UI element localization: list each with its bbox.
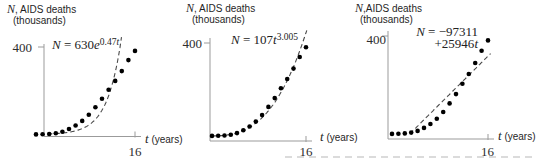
data-point [403,131,408,136]
chart-power-fit: N, AIDS deaths (thousands) 400 N = 107t3… [170,0,351,159]
model-formula: N = 107t3.005 [231,34,298,48]
y-tick-label: 400 [8,40,32,55]
data-point [467,72,472,77]
data-point [260,113,265,118]
axes [204,38,312,142]
data-point [120,69,125,74]
x-tick-label: 16 [123,144,147,159]
y-axis-unit: (thousands) [192,14,255,25]
data-point [222,133,227,138]
data-point [47,132,52,137]
y-axis-title-line1: N,AIDS deaths [355,3,422,14]
y-axis-unit: (thousands) [360,14,422,25]
y-axis-title-line1: N, AIDS deaths [7,4,76,15]
data-point [100,97,105,102]
data-point [241,128,246,133]
y-var: N [355,1,363,15]
data-point [73,123,78,128]
data-point [266,105,271,110]
cropped-caption-remnant [285,156,537,158]
y-axis-title: N, AIDS deaths (thousands) [7,4,76,26]
data-point [291,66,296,71]
y-axis-title: N, AIDS deaths (thousands) [186,3,255,25]
data-point [447,101,452,106]
data-point [473,61,478,66]
y-var: N [7,2,15,16]
x-axis-title: t (years) [498,126,536,144]
data-point [216,134,221,139]
data-point [435,117,440,122]
fit-curve [410,54,491,134]
data-point [235,131,240,136]
y-axis-unit: (thousands) [13,15,76,26]
data-point [113,79,118,84]
data-point [40,132,45,137]
data-point [87,113,92,118]
data-point [297,55,302,60]
data-point [106,87,111,92]
data-point [422,126,427,131]
data-point [390,132,395,137]
data-point [479,48,484,53]
chart-exponential-fit: N, AIDS deaths (thousands) 400 N = 630e0… [0,0,192,159]
data-point [67,127,72,132]
data-point [54,131,59,136]
data-point [428,122,433,127]
x-title-rest: (years) [502,131,536,142]
data-point [254,119,259,124]
data-point [229,132,234,137]
data-point [396,132,401,137]
data-point [126,58,131,63]
data-point [409,130,414,135]
data-point [80,119,85,124]
data-point [272,96,277,101]
aids-deaths-figure: N, AIDS deaths (thousands) 400 N = 630e0… [0,0,542,159]
data-point [415,129,420,134]
data-point [454,92,459,97]
data-point [60,129,65,134]
axes [38,44,141,138]
y-axis-title: N,AIDS deaths (thousands) [355,3,422,25]
data-point [441,110,446,115]
data-point [304,45,309,50]
chart-linear-fit: N,AIDS deaths (thousands) 400 N = −97311… [350,0,542,159]
y-title-rest: ,AIDS deaths [363,3,422,14]
y-tick-label: 400 [362,32,386,47]
y-title-rest: , AIDS deaths [15,4,76,15]
y-tick-label: 400 [178,36,202,51]
data-point [486,38,491,43]
data-point [210,134,215,139]
data-point [279,86,284,91]
data-point [133,49,138,54]
y-axis-title-line1: N, AIDS deaths [186,3,255,14]
data-point [460,82,465,87]
model-formula: N = −97311+25946t [408,26,478,49]
y-title-rest: , AIDS deaths [194,3,255,14]
data-point [247,124,252,129]
y-var: N [186,1,194,15]
data-point [285,77,290,82]
data-point [93,105,98,110]
model-formula: N = 630e0.47t [52,39,119,53]
data-point [34,132,39,137]
